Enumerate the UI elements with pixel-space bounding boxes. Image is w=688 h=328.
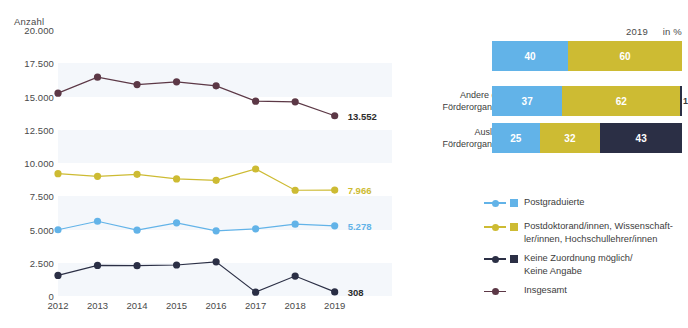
legend-line-marker-icon	[484, 199, 506, 207]
series-point[interactable]	[133, 81, 140, 88]
legend-item[interactable]: Keine Zuordnung möglich/Keine Angabe	[484, 252, 686, 277]
x-axis-tick: 2014	[126, 300, 147, 311]
series-point[interactable]	[213, 258, 220, 265]
bar-segment-postdoc[interactable]: 32	[540, 123, 601, 153]
series-point[interactable]	[213, 82, 220, 89]
series-end-label: 7.966	[348, 185, 372, 196]
bar-row: DAAD4060	[440, 41, 686, 71]
series-point[interactable]	[94, 74, 101, 81]
legend-item-label: Insgesamt	[524, 284, 686, 297]
series-point[interactable]	[292, 98, 299, 105]
series-point[interactable]	[252, 225, 259, 232]
legend-item[interactable]: Postdoktorand/innen, Wissenschaft-ler/in…	[484, 220, 686, 245]
x-axis-tick: 2013	[87, 300, 108, 311]
bar-segment-postgraduierte[interactable]: 25	[492, 123, 540, 153]
y-axis-tick: 2.500	[8, 257, 54, 268]
y-axis-tick: 10.000	[8, 158, 54, 169]
bar-segment-value: 32	[564, 133, 575, 144]
series-point[interactable]	[54, 272, 61, 279]
legend-color-swatch-icon	[510, 255, 518, 263]
series-point[interactable]	[94, 218, 101, 225]
bar-segment-postdoc[interactable]: 60	[568, 41, 682, 71]
series-point[interactable]	[173, 175, 180, 182]
bar-segment-postdoc[interactable]: 62	[562, 86, 680, 116]
series-line	[58, 169, 335, 190]
bar-segment-value: 60	[619, 51, 630, 62]
x-axis-tick: 2017	[245, 300, 266, 311]
series-point[interactable]	[173, 78, 180, 85]
bar-segment-postgraduierte[interactable]: 37	[492, 86, 562, 116]
series-point[interactable]	[331, 222, 338, 229]
series-point[interactable]	[133, 171, 140, 178]
series-point[interactable]	[292, 221, 299, 228]
y-axis-tick: 7.500	[8, 191, 54, 202]
x-axis-tick: 2019	[324, 300, 345, 311]
series-point[interactable]	[54, 90, 61, 97]
legend-line-marker-icon	[484, 287, 506, 295]
x-axis-tick: 2015	[166, 300, 187, 311]
y-axis-ticks: 20.00017.50015.00012.50010.0007.5005.000…	[0, 0, 54, 328]
bar-header-year: 2019	[626, 26, 648, 37]
bar-segment-value: 37	[522, 96, 533, 107]
series-point[interactable]	[292, 272, 299, 279]
series-point[interactable]	[54, 226, 61, 233]
series-end-label: 5.278	[348, 220, 372, 231]
y-axis-tick: 5.000	[8, 224, 54, 235]
bar-row: AusländischeFörderorganisationen253243	[440, 123, 686, 153]
series-point[interactable]	[94, 262, 101, 269]
series-point[interactable]	[94, 173, 101, 180]
y-axis-tick: 15.000	[8, 91, 54, 102]
bar-segment-postgraduierte[interactable]: 40	[492, 41, 568, 71]
series-point[interactable]	[54, 170, 61, 177]
series-point[interactable]	[331, 112, 338, 119]
legend-color-swatch-icon	[510, 199, 518, 207]
series-line	[58, 77, 335, 116]
legend-item[interactable]: Postgraduierte	[484, 196, 686, 213]
bar-segment-value: 62	[616, 96, 627, 107]
line-chart-panel: Anzahl 20.00017.50015.00012.50010.0007.5…	[0, 0, 440, 328]
series-point[interactable]	[331, 186, 338, 193]
legend-marker-dot-icon	[492, 256, 499, 263]
legend-marker-dot-icon	[492, 224, 499, 231]
series-point[interactable]	[173, 261, 180, 268]
legend: PostgraduiertePostdoktorand/innen, Wisse…	[484, 196, 686, 308]
line-series-svg	[58, 30, 392, 296]
x-axis-tick: 2018	[285, 300, 306, 311]
bar-header-unit: in %	[663, 26, 682, 37]
bar-track: 4060	[492, 41, 682, 71]
series-point[interactable]	[331, 288, 338, 295]
x-axis-tick: 2016	[206, 300, 227, 311]
legend-marker-dot-icon	[492, 200, 499, 207]
series-point[interactable]	[213, 177, 220, 184]
series-point[interactable]	[252, 289, 259, 296]
series-point[interactable]	[213, 227, 220, 234]
bar-chart-header: 2019 in %	[626, 26, 682, 37]
y-axis-tick: 20.000	[8, 25, 54, 36]
bar-track: 253243	[492, 123, 682, 153]
legend-color-swatch-icon	[510, 223, 518, 231]
x-axis-tick: 2012	[47, 300, 68, 311]
line-plot-area	[58, 30, 392, 296]
bar-segment-value: 1	[683, 96, 688, 106]
bar-chart-panel: 2019 in % DAAD4060Andere deutscheFördero…	[440, 0, 686, 328]
bar-segment-keine-zuordnung[interactable]: 43	[600, 123, 682, 153]
bar-segment-keine-zuordnung[interactable]: 1	[680, 86, 682, 116]
bar-segment-value: 40	[524, 51, 535, 62]
series-point[interactable]	[173, 219, 180, 226]
series-point[interactable]	[133, 262, 140, 269]
legend-line-marker-icon	[484, 255, 506, 263]
series-end-label: 13.552	[348, 110, 377, 121]
series-point[interactable]	[292, 187, 299, 194]
series-point[interactable]	[252, 165, 259, 172]
legend-item-label: Postgraduierte	[524, 196, 686, 209]
series-point[interactable]	[252, 98, 259, 105]
y-axis-tick: 12.500	[8, 124, 54, 135]
bar-row: Andere deutscheFörderorganisationen37621	[440, 86, 686, 116]
legend-item[interactable]: Insgesamt	[484, 284, 686, 301]
bar-segment-value: 43	[636, 133, 647, 144]
legend-line-marker-icon	[484, 223, 506, 231]
series-point[interactable]	[133, 227, 140, 234]
legend-item-label: Postdoktorand/innen, Wissenschaft-ler/in…	[524, 220, 686, 245]
series-end-label: 308	[348, 286, 364, 297]
